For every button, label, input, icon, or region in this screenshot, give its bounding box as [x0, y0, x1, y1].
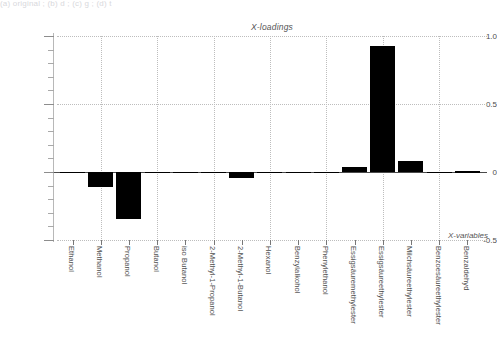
x-tick-label: Benzylalkohol: [293, 246, 302, 294]
y-tick-minor: [48, 199, 54, 200]
y-axis-spine: [53, 33, 54, 242]
bar: [173, 172, 198, 173]
x-tick: [439, 240, 440, 245]
x-tick: [326, 240, 327, 245]
y-tick-minor: [48, 145, 54, 146]
bar: [257, 172, 282, 173]
gridline-vertical: [326, 36, 327, 239]
clipped-header-text: (a) original ; (b) d ; (c) g ; (d) t: [0, 0, 497, 8]
bar: [229, 172, 254, 178]
x-tick-label: iso Butanol: [180, 246, 189, 284]
x-tick-label: Essigsäuremethylester: [349, 246, 358, 324]
x-tick-label: Methanol: [95, 246, 104, 278]
x-tick: [242, 240, 243, 245]
x-tick: [383, 240, 384, 245]
x-tick: [129, 240, 130, 245]
x-tick: [73, 240, 74, 245]
x-loadings-chart: (a) original ; (b) d ; (c) g ; (d) t X-l…: [0, 0, 497, 343]
bar: [398, 161, 423, 172]
gridline-vertical: [157, 36, 158, 239]
y-tick-minor: [48, 50, 54, 51]
x-tick-label: Essigsäureethylester: [377, 246, 386, 318]
x-tick-label: Propanol: [123, 246, 132, 277]
x-tick: [185, 240, 186, 245]
gridline-horizontal: [57, 36, 487, 37]
plot-area: [57, 36, 487, 239]
x-tick: [355, 240, 356, 245]
bar: [145, 172, 170, 173]
gridline-vertical: [270, 36, 271, 239]
y-tick-minor: [48, 213, 54, 214]
y-tick-minor: [48, 186, 54, 187]
x-tick: [467, 240, 468, 245]
bar: [286, 172, 311, 173]
y-tick-minor: [48, 131, 54, 132]
bar: [370, 46, 395, 172]
x-tick: [298, 240, 299, 245]
y-tick-minor: [48, 90, 54, 91]
x-tick-label: Butanol: [152, 246, 161, 272]
y-tick-minor: [48, 118, 54, 119]
x-tick: [270, 240, 271, 245]
y-tick-minor: [48, 77, 54, 78]
x-tick-label: Hexanol: [264, 246, 273, 274]
bar: [342, 167, 367, 172]
x-tick-label: 2-Methyl-1-Butanol: [236, 246, 245, 311]
x-tick: [157, 240, 158, 245]
bar: [314, 172, 339, 173]
bar: [455, 171, 480, 172]
bar: [201, 172, 226, 173]
x-tick-label: Phenylethanol: [321, 246, 330, 295]
bar: [427, 172, 452, 173]
bar: [88, 172, 113, 187]
y-tick-major: [44, 104, 54, 105]
x-tick-label: Milchsäureethylester: [405, 246, 414, 317]
y-tick-minor: [48, 158, 54, 159]
y-tick-minor: [48, 226, 54, 227]
y-tick-major: [44, 172, 54, 173]
gridline-vertical: [214, 36, 215, 239]
bar: [116, 172, 141, 219]
x-tick: [411, 240, 412, 245]
gridline-horizontal: [57, 104, 487, 105]
x-tick-label: 2-Methyl-1-Propanol: [208, 246, 217, 316]
chart-title: X-loadings: [57, 22, 487, 32]
x-tick: [101, 240, 102, 245]
x-tick-label: Benzoesäureethylester: [434, 246, 443, 325]
x-tick: [214, 240, 215, 245]
y-tick-major: [44, 36, 54, 37]
gridline-vertical: [439, 36, 440, 239]
y-tick-major: [44, 240, 54, 241]
x-tick-label: Ethanol: [67, 246, 76, 272]
x-tick-label: Benzaldehyd: [462, 246, 471, 290]
gridline-vertical: [101, 36, 102, 239]
gridline-horizontal: [57, 240, 487, 241]
y-tick-minor: [48, 63, 54, 64]
bar: [60, 172, 85, 173]
